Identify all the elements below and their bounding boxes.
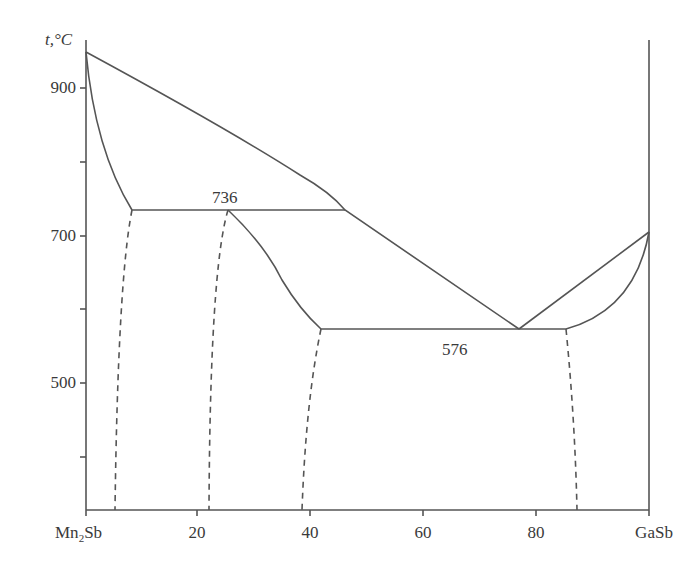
annotation-736: 736	[212, 188, 238, 208]
solvus-4	[566, 329, 577, 510]
phase-boundary	[228, 210, 321, 329]
x-tick-60: 60	[393, 523, 453, 543]
x-tick-20: 20	[167, 523, 227, 543]
solvus-1	[115, 210, 132, 510]
x-tick-40: 40	[280, 523, 340, 543]
annotation-576: 576	[442, 340, 468, 360]
liquidus-left	[86, 52, 519, 329]
x-tick-80: 80	[506, 523, 566, 543]
liquidus-right	[519, 232, 649, 329]
solidus-right	[566, 232, 649, 329]
y-tick-500: 500	[16, 373, 76, 393]
solidus-left	[86, 52, 132, 210]
x-tick-gasb: GaSb	[624, 523, 684, 543]
y-tick-700: 700	[16, 226, 76, 246]
x-tick-mn2sb: Mn2Sb	[55, 523, 102, 544]
solvus-2	[209, 210, 228, 510]
phase-diagram-plot	[0, 0, 698, 574]
y-axis-label: t,°C	[45, 30, 72, 50]
y-tick-900: 900	[16, 78, 76, 98]
solvus-3	[302, 329, 321, 510]
